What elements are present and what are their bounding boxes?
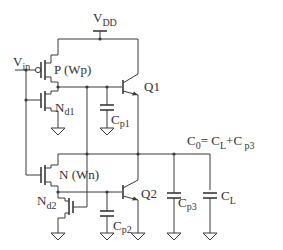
cp1-label: Cp1 bbox=[111, 112, 130, 129]
p-transistor-label: P (Wp) bbox=[54, 62, 91, 77]
nd1-label: Nd1 bbox=[55, 100, 74, 117]
capacitor-cp2: Cp2 bbox=[100, 192, 132, 240]
cp3-label: Cp3 bbox=[178, 195, 197, 212]
n-transistor-label: N (Wn) bbox=[59, 167, 99, 182]
capacitor-cp1: Cp1 bbox=[100, 87, 130, 135]
bjt-q1: Q1 bbox=[123, 39, 160, 154]
ground-icon bbox=[203, 233, 217, 240]
cp2-label: Cp2 bbox=[113, 218, 132, 235]
bicmos-inverter-circuit: VDD Vin P (Wp) Nd1 bbox=[0, 0, 283, 250]
nmos-transistor-nd1: Nd1 bbox=[26, 87, 74, 135]
vin-label: Vin bbox=[13, 54, 30, 72]
capacitor-cp3: Cp3 bbox=[167, 154, 197, 240]
node-a-wire bbox=[56, 85, 122, 207]
cl-label: CL bbox=[221, 188, 236, 206]
nmos-transistor-nd2: Nd2 bbox=[37, 192, 87, 240]
ground-icon bbox=[131, 233, 145, 240]
capacitance-equation: C0= CL+C p3 bbox=[187, 133, 255, 151]
nmos-transistor-n: N (Wn) bbox=[26, 165, 99, 192]
ground-icon bbox=[51, 233, 65, 240]
capacitor-cl: CL bbox=[203, 188, 236, 240]
pmos-transistor-p: P (Wp) bbox=[35, 39, 91, 87]
ground-icon bbox=[167, 233, 181, 240]
vin-input: Vin bbox=[13, 54, 35, 175]
ground-icon bbox=[100, 233, 114, 240]
q2-label: Q2 bbox=[141, 186, 157, 201]
vdd-supply: VDD bbox=[93, 10, 117, 41]
node-b-wire bbox=[56, 190, 122, 193]
ground-icon bbox=[100, 128, 114, 135]
nd2-label: Nd2 bbox=[37, 193, 56, 211]
vdd-label: VDD bbox=[93, 10, 117, 28]
ground-icon bbox=[51, 128, 65, 135]
q1-label: Q1 bbox=[144, 79, 160, 94]
